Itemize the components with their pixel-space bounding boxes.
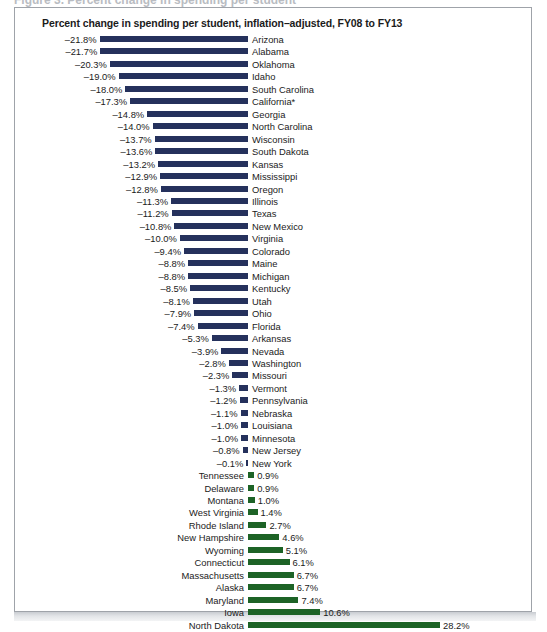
bar-row: Montana1.0% bbox=[15, 495, 531, 508]
bar-category-label: Missouri bbox=[248, 370, 287, 381]
bar-value-label: –2.8% bbox=[15, 358, 226, 369]
bar-value-label: –2.3% bbox=[15, 370, 229, 381]
bar-row: –13.7%Wisconsin bbox=[15, 134, 531, 147]
bar-category-label: Georgia bbox=[248, 109, 285, 120]
bar-category-label: Maryland bbox=[15, 595, 244, 606]
bar-value-label: 6.7% bbox=[297, 582, 318, 593]
bar-negative bbox=[110, 61, 248, 67]
bar-value-label: –8.8% bbox=[15, 258, 185, 269]
bar-category-label: West Virginia bbox=[15, 507, 244, 518]
bar-category-label: Iowa bbox=[15, 607, 244, 618]
bar-row: –13.6%South Dakota bbox=[15, 146, 531, 159]
bar-row: –14.8%Georgia bbox=[15, 109, 531, 122]
bar-category-label: Utah bbox=[248, 296, 272, 307]
bar-positive bbox=[248, 559, 290, 565]
bar-category-label: Minnesota bbox=[248, 433, 295, 444]
bar-positive bbox=[248, 547, 283, 553]
bar-category-label: Nebraska bbox=[248, 408, 292, 419]
bar-row: –8.5%Kentucky bbox=[15, 283, 531, 296]
bar-negative bbox=[194, 310, 248, 316]
bar-value-label: –12.9% bbox=[15, 171, 157, 182]
bar-row: –0.8%New Jersey bbox=[15, 445, 531, 458]
bar-row: –7.4%Florida bbox=[15, 321, 531, 334]
bar-category-label: Florida bbox=[248, 321, 281, 332]
bar-value-label: 10.6% bbox=[323, 607, 350, 618]
bar-positive bbox=[248, 597, 298, 603]
bar-row: –20.3%Oklahoma bbox=[15, 59, 531, 72]
bar-negative bbox=[198, 323, 248, 329]
bar-category-label: Alabama bbox=[248, 46, 289, 57]
bar-negative bbox=[241, 435, 248, 441]
bar-row: –1.3%Vermont bbox=[15, 383, 531, 396]
bar-value-label: –1.0% bbox=[15, 433, 238, 444]
bar-value-label: –13.7% bbox=[15, 134, 152, 145]
bar-category-label: New York bbox=[248, 458, 292, 469]
bar-negative bbox=[130, 98, 248, 104]
bar-category-label: New Jersey bbox=[248, 445, 301, 456]
bar-negative bbox=[125, 86, 248, 92]
bar-category-label: Tennessee bbox=[15, 470, 244, 481]
bar-row: –19.0%Idaho bbox=[15, 71, 531, 84]
bar-row: –14.0%North Carolina bbox=[15, 121, 531, 134]
bar-category-label: Maine bbox=[248, 258, 278, 269]
bar-row: Alaska6.7% bbox=[15, 582, 531, 595]
bar-negative bbox=[232, 372, 248, 378]
bar-row: –11.2%Texas bbox=[15, 208, 531, 221]
bar-negative bbox=[100, 48, 248, 54]
bar-value-label: –21.8% bbox=[15, 34, 97, 45]
bar-value-label: –7.9% bbox=[15, 308, 191, 319]
cut-off-headline: Figure 3. Percent change in spending per… bbox=[0, 0, 547, 7]
bar-value-label: –10.8% bbox=[15, 221, 171, 232]
bar-negative bbox=[174, 223, 248, 229]
bar-positive bbox=[248, 609, 320, 615]
bar-category-label: Oregon bbox=[248, 184, 283, 195]
bar-category-label: Connecticut bbox=[15, 557, 244, 568]
bar-category-label: North Carolina bbox=[248, 121, 312, 132]
bar-row: –0.1%New York bbox=[15, 458, 531, 471]
bar-negative bbox=[193, 298, 248, 304]
bar-negative bbox=[147, 111, 248, 117]
bar-positive bbox=[248, 472, 254, 478]
chart-title: Percent change in spending per student, … bbox=[42, 17, 402, 29]
bar-category-label: Mississippi bbox=[248, 171, 297, 182]
bar-value-label: –11.2% bbox=[15, 208, 169, 219]
bar-category-label: New Hampshire bbox=[15, 532, 244, 543]
bar-negative bbox=[155, 148, 248, 154]
bar-row: Massachusetts6.7% bbox=[15, 570, 531, 583]
bar-value-label: –1.1% bbox=[15, 408, 238, 419]
bar-value-label: 0.9% bbox=[257, 483, 278, 494]
bar-category-label: Arkansas bbox=[248, 333, 291, 344]
bar-negative bbox=[240, 397, 248, 403]
bar-category-label: Wisconsin bbox=[248, 134, 295, 145]
bar-category-label: Michigan bbox=[248, 271, 290, 282]
bar-value-label: –12.8% bbox=[15, 184, 158, 195]
bar-positive bbox=[248, 485, 254, 491]
bar-category-label: California* bbox=[248, 96, 295, 107]
bar-category-label: Illinois bbox=[248, 196, 278, 207]
bar-category-label: Idaho bbox=[248, 71, 275, 82]
bar-category-label: Nevada bbox=[248, 346, 284, 357]
bar-chart-plot-area: –21.8%Arizona–21.7%Alabama–20.3%Oklahoma… bbox=[15, 34, 531, 610]
bar-row: –13.2%Kansas bbox=[15, 159, 531, 172]
bar-value-label: –11.3% bbox=[15, 196, 168, 207]
bar-row: –18.0%South Carolina bbox=[15, 84, 531, 97]
bar-row: New Hampshire4.6% bbox=[15, 532, 531, 545]
bar-value-label: –19.0% bbox=[15, 71, 116, 82]
bar-row: Iowa10.6% bbox=[15, 607, 531, 620]
bar-value-label: –18.0% bbox=[15, 84, 122, 95]
bar-value-label: –13.2% bbox=[15, 159, 155, 170]
bar-category-label: Pennsylvania bbox=[248, 395, 308, 406]
bar-positive bbox=[248, 584, 294, 590]
bar-category-label: Massachusetts bbox=[15, 570, 244, 581]
bar-value-label: –8.8% bbox=[15, 271, 185, 282]
bar-value-label: 7.4% bbox=[301, 595, 322, 606]
bar-value-label: 1.0% bbox=[258, 495, 279, 506]
bar-value-label: 0.9% bbox=[257, 470, 278, 481]
bar-category-label: Virginia bbox=[248, 233, 283, 244]
bar-value-label: –8.1% bbox=[15, 296, 190, 307]
bar-row: –5.3%Arkansas bbox=[15, 333, 531, 346]
bar-value-label: –14.0% bbox=[15, 121, 150, 132]
bar-row: –10.0%Virginia bbox=[15, 233, 531, 246]
bar-value-label: –1.2% bbox=[15, 395, 237, 406]
bar-category-label: South Dakota bbox=[248, 146, 309, 157]
